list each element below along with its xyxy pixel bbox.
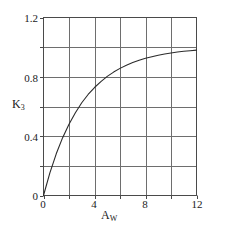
ytick-label-3: 1.2 [10, 13, 38, 24]
y-axis-title-base: K [12, 97, 21, 111]
y-axis-title: K3 [12, 98, 25, 112]
x-axis-title: AW [101, 209, 117, 223]
x-axis-title-base: A [101, 208, 110, 222]
x-axis-title-subscript: W [110, 214, 118, 223]
chart-figure: 0 0.4 0.8 1.2 0 4 8 12 K3 AW [0, 0, 228, 230]
axis-ticks [40, 19, 198, 200]
vertical-gridlines [70, 18, 172, 196]
ytick-label-2: 0.8 [10, 73, 38, 84]
y-axis-title-subscript: 3 [21, 103, 25, 112]
xtick-label-3: 12 [187, 199, 207, 210]
ytick-label-1: 0.4 [10, 132, 38, 143]
xtick-label-2: 8 [135, 199, 155, 210]
xtick-label-0: 0 [33, 199, 53, 210]
